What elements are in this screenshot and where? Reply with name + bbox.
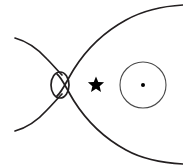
upper-cusp-line — [15, 38, 62, 75]
diagram-canvas — [0, 0, 183, 167]
star-marker — [88, 77, 104, 92]
lower-cusp-line — [15, 94, 62, 131]
plasmoid-ellipse — [51, 72, 69, 98]
magnetic-topology-svg — [0, 0, 183, 167]
orbit-center-dot — [141, 83, 145, 87]
